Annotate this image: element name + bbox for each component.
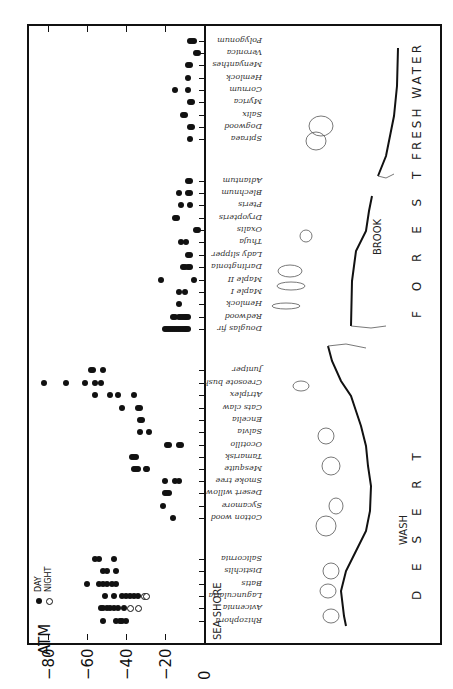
night-data-point — [127, 605, 134, 612]
row-tick — [199, 584, 204, 585]
day-data-point — [162, 478, 168, 484]
day-data-point — [96, 556, 102, 562]
row-tick — [199, 115, 204, 116]
x-tick-label: −20 — [157, 648, 175, 680]
x-axis-tick — [165, 26, 166, 32]
row-tick — [199, 395, 204, 396]
row-tick — [199, 127, 204, 128]
row-tick — [199, 481, 204, 482]
row-tick — [199, 420, 204, 421]
row-tick — [199, 41, 204, 42]
row-tick — [199, 329, 204, 330]
x-axis-tick — [165, 634, 166, 640]
night-data-point — [143, 593, 150, 600]
day-data-point — [123, 618, 129, 624]
day-data-point — [176, 289, 182, 295]
row-tick — [199, 90, 204, 91]
day-data-point — [90, 367, 96, 373]
x-axis-tick — [126, 26, 127, 32]
day-data-point — [166, 442, 172, 448]
x-tick-label: −60 — [79, 648, 97, 680]
legend-night-marker — [46, 598, 53, 605]
day-data-point — [178, 202, 184, 208]
row-tick — [199, 559, 204, 560]
day-data-point — [135, 593, 141, 599]
row-tick — [199, 65, 204, 66]
day-data-point — [92, 380, 98, 386]
row-tick — [199, 571, 204, 572]
row-tick — [199, 242, 204, 243]
day-data-point — [178, 442, 184, 448]
row-tick — [199, 506, 204, 507]
day-data-point — [176, 301, 182, 307]
day-data-point — [133, 454, 139, 460]
row-tick — [199, 218, 204, 219]
row-tick — [199, 292, 204, 293]
row-tick — [199, 280, 204, 281]
day-data-point — [82, 380, 88, 386]
region-label-wash: WASH — [398, 515, 409, 545]
pressure-chart: −80−60−40−200 PolygonumVeronicaMenyanthe… — [0, 0, 453, 689]
day-data-point — [63, 380, 69, 386]
x-axis-tick — [87, 26, 88, 32]
day-data-point — [135, 466, 141, 472]
landscape-profile-drawing — [206, 26, 438, 641]
row-tick — [199, 457, 204, 458]
day-data-point — [176, 190, 182, 196]
day-data-point — [172, 87, 178, 93]
day-data-point — [180, 112, 186, 118]
region-label-brook: BROOK — [372, 219, 383, 255]
region-label-seashore: SEA SHORE — [212, 582, 223, 640]
row-tick — [199, 267, 204, 268]
day-data-point — [166, 490, 172, 496]
day-data-point — [170, 515, 176, 521]
day-data-point — [104, 568, 110, 574]
row-tick — [199, 102, 204, 103]
row-tick — [199, 493, 204, 494]
x-tick-label: 0 — [196, 670, 214, 680]
row-tick — [199, 317, 204, 318]
day-data-point — [176, 478, 182, 484]
row-tick — [199, 205, 204, 206]
region-label-freshwater: FRESH WATER — [410, 42, 424, 160]
row-tick — [199, 139, 204, 140]
region-label-forest: F O R E S T — [410, 164, 424, 318]
row-tick — [199, 255, 204, 256]
row-tick — [199, 469, 204, 470]
row-tick — [199, 78, 204, 79]
x-tick-label: −40 — [118, 648, 136, 680]
row-tick — [199, 304, 204, 305]
x-axis-tick — [87, 634, 88, 640]
x-axis-tick — [126, 634, 127, 640]
day-data-point — [102, 593, 108, 599]
day-data-point — [100, 618, 106, 624]
legend-day-marker — [36, 598, 42, 604]
day-data-point — [100, 367, 106, 373]
day-data-point — [131, 392, 137, 398]
day-data-point — [139, 417, 145, 423]
row-tick — [199, 408, 204, 409]
legend-night-label: NIGHT — [44, 567, 53, 592]
day-data-point — [84, 581, 90, 587]
day-data-point — [137, 405, 143, 411]
row-tick — [199, 518, 204, 519]
day-data-point — [160, 503, 166, 509]
day-data-point — [174, 215, 180, 221]
axis-title: ATM — [36, 624, 54, 655]
row-tick — [199, 370, 204, 371]
row-tick — [199, 621, 204, 622]
row-tick — [199, 608, 204, 609]
day-data-point — [92, 392, 98, 398]
region-label-desert: D E S E R T — [410, 445, 424, 600]
night-data-point — [135, 605, 142, 612]
day-data-point — [182, 289, 188, 295]
row-tick — [199, 596, 204, 597]
row-tick — [199, 432, 204, 433]
row-tick — [199, 193, 204, 194]
x-axis-tick — [48, 26, 49, 32]
row-tick — [199, 445, 204, 446]
legend-day-label: DAY — [34, 576, 43, 592]
day-data-point — [98, 380, 104, 386]
day-data-point — [137, 429, 143, 435]
row-tick — [199, 181, 204, 182]
